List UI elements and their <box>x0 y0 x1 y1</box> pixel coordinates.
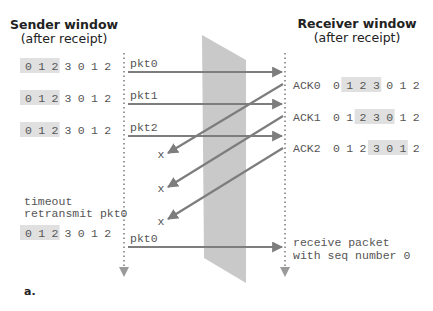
sender-row-seq-number: 2 <box>104 227 111 240</box>
receiver-row-seq-number: 2 <box>360 79 367 92</box>
sender-row-seq-number: 3 <box>65 227 72 240</box>
receiver-row-seq-number: 1 <box>400 142 407 155</box>
sender-row-seq-number: 1 <box>91 124 98 137</box>
sender-row-seq-number: 1 <box>38 60 45 73</box>
packet-label: pkt1 <box>130 89 158 102</box>
receiver-row-seq-number: 0 <box>386 111 393 124</box>
seq-number-label: with seq number 0 <box>293 249 410 262</box>
sender-row-seq-number: 0 <box>25 60 32 73</box>
retransmit-label: retransmit pkt0 <box>24 207 128 220</box>
sender-row-seq-number: 1 <box>91 227 98 240</box>
lost-marker: x <box>158 148 165 161</box>
gbn-sequence-diagram: Sender window (after receipt) Receiver w… <box>0 0 433 311</box>
sender-title: Sender window <box>10 17 119 32</box>
sender-row-seq-number: 1 <box>38 227 45 240</box>
receiver-row-seq-number: 3 <box>373 142 380 155</box>
packet-label: pkt0 <box>130 57 158 70</box>
receiver-row-seq-number: 0 <box>333 142 340 155</box>
diagram-canvas: Sender window (after receipt) Receiver w… <box>0 0 433 311</box>
sender-row-seq-number: 2 <box>104 124 111 137</box>
receiver-row-seq-number: 2 <box>413 79 420 92</box>
sender-row-seq-number: 1 <box>91 60 98 73</box>
packet-label: pkt0 <box>130 232 158 245</box>
receiver-row-seq-number: 1 <box>346 142 353 155</box>
receiver-row-seq-number: 0 <box>333 111 340 124</box>
receiver-row-seq-number: 1 <box>346 79 353 92</box>
receiver-row-seq-number: 3 <box>373 79 380 92</box>
receiver-row-seq-number: 1 <box>346 111 353 124</box>
sender-row-seq-number: 0 <box>78 124 85 137</box>
sender-row-seq-number: 0 <box>25 124 32 137</box>
sender-subtitle: (after receipt) <box>21 31 108 46</box>
receiver-row-seq-number: 2 <box>413 111 420 124</box>
ack-label: ACK1 <box>293 111 321 124</box>
receiver-subtitle: (after receipt) <box>314 30 401 45</box>
sender-row-seq-number: 2 <box>51 60 58 73</box>
receiver-row-seq-number: 1 <box>400 111 407 124</box>
receiver-row-seq-number: 2 <box>360 111 367 124</box>
sender-row-seq-number: 2 <box>51 92 58 105</box>
ack-label: ACK2 <box>293 142 321 155</box>
sender-row-seq-number: 0 <box>25 227 32 240</box>
sender-row-seq-number: 0 <box>78 60 85 73</box>
sender-row-seq-number: 2 <box>104 60 111 73</box>
sender-row-seq-number: 3 <box>65 124 72 137</box>
lost-marker: x <box>158 215 165 228</box>
sender-row-seq-number: 1 <box>91 92 98 105</box>
sender-row-seq-number: 0 <box>78 227 85 240</box>
sender-row-seq-number: 0 <box>25 92 32 105</box>
receiver-row-seq-number: 0 <box>386 142 393 155</box>
receiver-title: Receiver window <box>297 16 417 31</box>
receive-packet-label: receive packet <box>293 236 390 249</box>
sender-row-seq-number: 1 <box>38 92 45 105</box>
sender-row-seq-number: 2 <box>51 124 58 137</box>
sender-row-seq-number: 0 <box>78 92 85 105</box>
receiver-row-seq-number: 0 <box>386 79 393 92</box>
receiver-row-seq-number: 0 <box>333 79 340 92</box>
receiver-row-seq-number: 2 <box>413 142 420 155</box>
lost-marker: x <box>158 182 165 195</box>
receiver-row-seq-number: 1 <box>400 79 407 92</box>
sender-row-seq-number: 3 <box>65 60 72 73</box>
sender-row-seq-number: 2 <box>104 92 111 105</box>
sender-row-seq-number: 1 <box>38 124 45 137</box>
packet-label: pkt2 <box>130 121 158 134</box>
receiver-row-seq-number: 3 <box>373 111 380 124</box>
ack-label: ACK0 <box>293 79 321 92</box>
sender-row-seq-number: 3 <box>65 92 72 105</box>
receiver-row-seq-number: 2 <box>360 142 367 155</box>
subfigure-label: a. <box>24 285 36 298</box>
sender-row-seq-number: 2 <box>51 227 58 240</box>
